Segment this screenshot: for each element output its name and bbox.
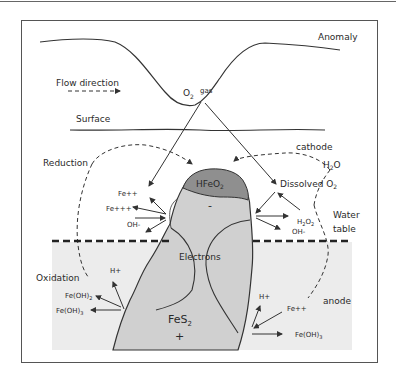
dissolved-o2-label: Dissolved O2	[280, 179, 337, 190]
fe-pp-left-label: Fe++	[118, 190, 138, 198]
reduction-label: Reduction	[43, 158, 88, 168]
fe-ppp-left-label: Fe+++	[106, 205, 132, 213]
hfeo2-label: HFeO2	[196, 179, 224, 190]
cathode-label: cathode	[296, 142, 333, 152]
gas-label: gas	[200, 87, 213, 95]
oxidation-label: Oxidation	[36, 273, 79, 283]
oh-right-label: OH-	[292, 228, 306, 236]
water-label: Water	[333, 210, 360, 220]
flow-direction-label: Flow direction	[56, 78, 119, 88]
feoh3-left-label: Fe(OH)3	[56, 307, 83, 316]
anode-label: anode	[323, 296, 351, 306]
fe-pp-right-label: Fe++	[287, 305, 307, 313]
surface-label: Surface	[76, 114, 111, 124]
plus-sign: +	[175, 330, 184, 343]
feoh3-right-label: Fe(OH)3	[295, 331, 322, 340]
electrons-label: Electrons	[179, 252, 221, 262]
minus-sign: -	[208, 199, 212, 212]
anomaly-label: Anomaly	[318, 32, 358, 42]
oh-left-label: OH-	[127, 221, 141, 229]
h-plus-right-label: H+	[259, 293, 270, 301]
diagram-canvas: Anomaly Flow direction O2 gas Surface ca…	[0, 0, 396, 380]
table-label: table	[333, 224, 356, 234]
feoh2-left-label: Fe(OH)2	[65, 292, 92, 301]
h-plus-left-label: H+	[110, 267, 121, 275]
